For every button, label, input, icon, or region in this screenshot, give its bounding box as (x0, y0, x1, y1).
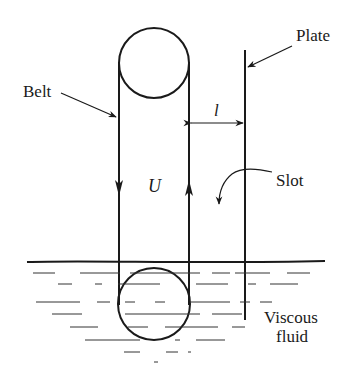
belt-viscous-fluid-diagram: l Belt Plate U Slot Viscous fluid (0, 0, 352, 378)
fluid-label-line2: fluid (276, 327, 309, 346)
bottom-pulley (118, 268, 190, 340)
plate-label: Plate (296, 26, 330, 45)
belt-label: Belt (23, 82, 52, 101)
gap-label: l (214, 101, 219, 120)
belt-leader-arrow (61, 93, 116, 117)
fluid-label-line1: Viscous (264, 308, 318, 327)
plate-leader-arrow (248, 46, 292, 67)
velocity-label: U (148, 176, 162, 196)
top-pulley (119, 28, 189, 98)
fluid-surface (27, 261, 325, 262)
slot-label: Slot (276, 171, 304, 190)
